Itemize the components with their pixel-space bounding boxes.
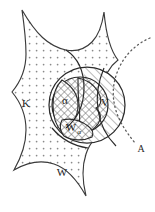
label-alpha: α <box>62 94 68 106</box>
label-W-alpha-subscript: α <box>77 128 81 136</box>
figure-canvas: K W V α W α A <box>0 0 155 212</box>
label-A: A <box>137 143 145 154</box>
label-K: K <box>22 97 30 109</box>
label-V: V <box>101 96 109 108</box>
label-W-alpha-base: W <box>66 121 77 133</box>
label-W: W <box>57 166 68 178</box>
set-diagram-svg: K W V α W α A <box>0 0 155 212</box>
